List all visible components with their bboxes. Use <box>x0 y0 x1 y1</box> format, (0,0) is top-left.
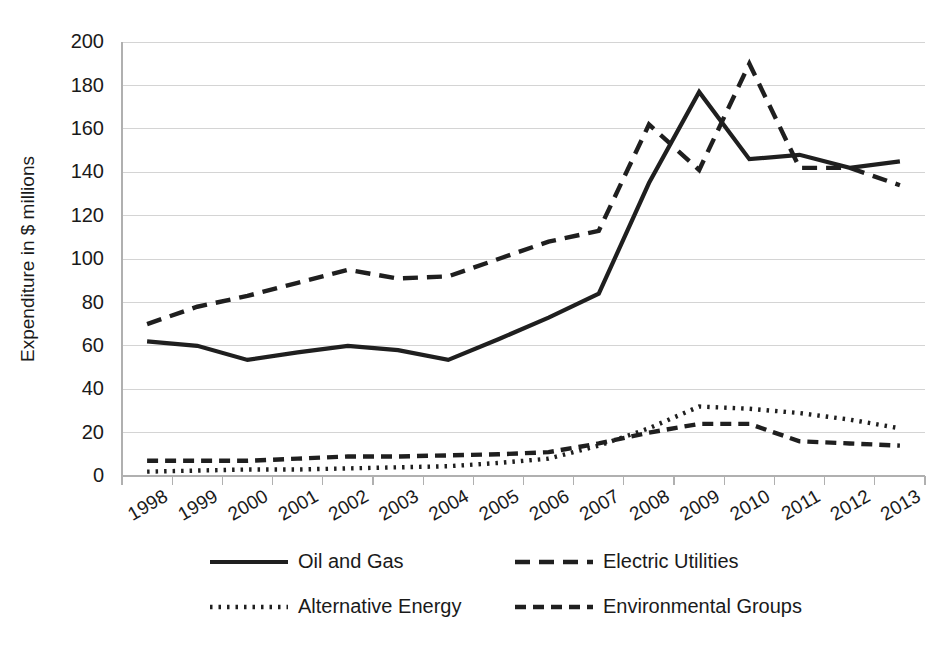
x-tick-label-2004: 2004 <box>425 485 472 525</box>
y-tick-label-60: 60 <box>82 334 104 356</box>
line-chart: 020406080100120140160180200 199819992000… <box>0 0 948 646</box>
x-axis-group <box>122 42 925 485</box>
legend-item-environmental-groups[interactable]: Environmental Groups <box>515 595 802 617</box>
x-tick-label-1998: 1998 <box>124 485 171 524</box>
x-tick-label-2002: 2002 <box>325 485 372 524</box>
chart-legend: Oil and GasElectric UtilitiesAlternative… <box>210 550 802 617</box>
y-axis-title-group: Expenditure in $ millions <box>17 156 38 362</box>
y-axis-title: Expenditure in $ millions <box>17 156 38 362</box>
x-tick-label-2009: 2009 <box>676 485 723 524</box>
x-tick-label-2008: 2008 <box>626 485 673 524</box>
series-line-electric-utilities <box>147 64 900 324</box>
y-tick-label-20: 20 <box>82 421 104 443</box>
y-axis-tick-labels: 020406080100120140160180200 <box>71 30 104 486</box>
legend-item-oil-and-gas[interactable]: Oil and Gas <box>210 550 404 572</box>
legend-item-alternative-energy[interactable]: Alternative Energy <box>210 595 461 617</box>
x-tick-label-2007: 2007 <box>576 485 623 524</box>
gridlines-group <box>122 42 925 433</box>
series-group <box>147 64 900 472</box>
x-tick-label-2006: 2006 <box>525 485 572 524</box>
x-tick-label-2012: 2012 <box>827 485 874 524</box>
legend-item-oil-and-gas-label: Oil and Gas <box>298 550 404 572</box>
series-line-environmental-groups <box>147 424 900 461</box>
x-tick-label-2005: 2005 <box>475 485 522 524</box>
x-tick-label-2000: 2000 <box>224 485 271 524</box>
legend-item-environmental-groups-label: Environmental Groups <box>603 595 802 617</box>
chart-container: 020406080100120140160180200 199819992000… <box>0 0 948 646</box>
y-tick-label-40: 40 <box>82 377 104 399</box>
y-tick-label-200: 200 <box>71 30 104 52</box>
y-tick-label-140: 140 <box>71 160 104 182</box>
x-tick-label-2001: 2001 <box>275 485 322 524</box>
legend-item-electric-utilities-label: Electric Utilities <box>603 550 739 572</box>
series-line-oil-and-gas <box>147 92 900 360</box>
y-tick-label-180: 180 <box>71 74 104 96</box>
legend-item-electric-utilities[interactable]: Electric Utilities <box>515 550 739 572</box>
y-tick-label-0: 0 <box>93 464 104 486</box>
x-tick-label-2010: 2010 <box>726 485 773 524</box>
x-tick-label-1999: 1999 <box>174 485 221 524</box>
legend-item-alternative-energy-label: Alternative Energy <box>298 595 461 617</box>
y-tick-label-100: 100 <box>71 247 104 269</box>
x-tick-label-2011: 2011 <box>778 485 824 524</box>
x-axis-tick-labels: 1998199920002001200220032004200520062007… <box>124 485 924 525</box>
y-tick-label-120: 120 <box>71 204 104 226</box>
y-tick-label-80: 80 <box>82 291 104 313</box>
x-tick-label-2003: 2003 <box>375 485 422 524</box>
x-tick-label-2013: 2013 <box>877 485 924 524</box>
y-tick-label-160: 160 <box>71 117 104 139</box>
